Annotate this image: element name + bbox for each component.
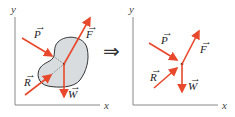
right-axes: y x [128,3,227,111]
svg-text:→: → [87,20,98,32]
diagram-canvas: y x P → F → R → W → ⇒ [0,0,235,117]
right-label-p: P → [160,26,173,46]
right-x-axis-label: x [221,99,227,111]
left-label-f: F → [85,20,98,40]
right-label-f: F → [199,35,212,55]
svg-text:→: → [162,26,173,38]
left-label-r: R → [23,68,36,88]
left-label-p: P → [33,20,46,40]
right-force-f-arrow [182,31,199,64]
svg-text:→: → [151,63,162,75]
svg-text:→: → [25,68,36,80]
left-y-axis-label: y [10,3,16,15]
left-x-axis-label: x [103,99,109,111]
left-panel: y x P → F → R → W → [10,3,109,111]
svg-text:→: → [35,20,46,32]
right-panel: y x P → F → R → W → [128,3,227,111]
left-force-p-arrow [22,38,52,56]
right-label-w: W → [188,72,201,92]
svg-text:→: → [70,80,81,92]
svg-text:→: → [190,72,201,84]
right-label-r: R → [149,63,162,83]
svg-text:→: → [201,35,212,47]
implies-arrow-icon: ⇒ [103,39,120,63]
right-y-axis-label: y [128,3,134,15]
left-label-w: W → [68,80,81,100]
